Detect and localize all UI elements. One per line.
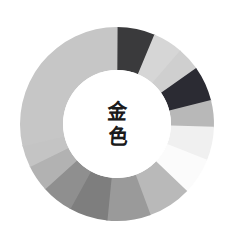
donut-chart: 金 色 [0, 0, 237, 240]
donut-slices-group [20, 27, 214, 221]
donut-center-hole [63, 70, 171, 178]
donut-chart-svg [0, 0, 237, 240]
